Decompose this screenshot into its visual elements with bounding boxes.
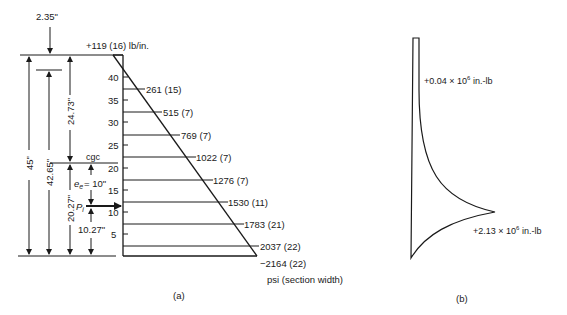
tick-label: 10 (108, 207, 119, 218)
stress-label: 1783 (21) (244, 219, 285, 230)
top-dimension-label: 2.35" (36, 11, 58, 22)
figure-a: 2.35" 45" 42.65" 24.73" 20.27" cgc ee = (18, 11, 343, 301)
dim-20-label: 20.27" (65, 195, 76, 222)
max-moment-label: +2.13 × 106 in.-lb (473, 225, 541, 236)
tick-label: 20 (108, 163, 119, 174)
dim-42-label: 42.65" (44, 159, 55, 186)
top-load-label: +119 (16) lb/in. (86, 40, 149, 51)
top-moment-label: +0.04 × 106 in.-lb (424, 75, 492, 86)
diagram-canvas: 2.35" 45" 42.65" 24.73" 20.27" cgc ee = (0, 0, 567, 315)
moment-diagram (411, 38, 495, 258)
stress-diagonal (113, 55, 257, 256)
ecc-symbol: ee (74, 178, 83, 190)
axis-ticks: 40 35 30 25 20 15 10 5 (108, 72, 128, 240)
dim-10-label: 10.27" (78, 224, 105, 235)
tick-label: 25 (108, 140, 119, 151)
stress-label: 1022 (7) (196, 152, 231, 163)
units-label: psi (section width) (267, 274, 343, 285)
caption-a: (a) (173, 290, 185, 301)
stress-label: 1276 (7) (213, 175, 248, 186)
figure-b: +0.04 × 106 in.-lb +2.13 × 106 in.-lb (b… (411, 38, 541, 304)
stress-label: 261 (15) (146, 84, 181, 95)
tick-label: 40 (108, 72, 119, 83)
force-symbol: Pi (76, 201, 84, 213)
stress-label: 769 (7) (181, 130, 211, 141)
tick-label: 15 (108, 185, 119, 196)
stress-label: 2037 (22) (260, 241, 301, 252)
cgc-label: cgc (86, 152, 101, 162)
tick-label: 5 (111, 229, 116, 240)
caption-b: (b) (456, 293, 468, 304)
dim-45-label: 45" (24, 156, 35, 170)
tick-label: 30 (108, 117, 119, 128)
ecc-value: = 10" (84, 178, 106, 189)
stress-label: 515 (7) (163, 107, 193, 118)
tick-label: 35 (108, 95, 119, 106)
stress-label: 1530 (11) (228, 197, 268, 208)
stress-label: −2164 (22) (260, 258, 306, 269)
dim-24-label: 24.73" (65, 98, 76, 125)
